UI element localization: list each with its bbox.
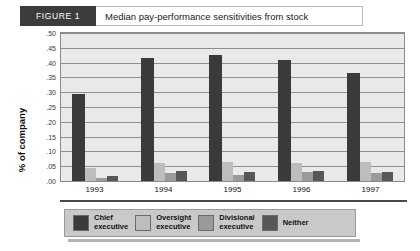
bar: [313, 171, 324, 181]
x-axis-ticks: 19931994199519961997: [60, 183, 405, 199]
x-axis-tick-label: 1997: [336, 183, 405, 199]
bar: [291, 163, 302, 181]
bar-group: [130, 33, 199, 181]
legend-swatch: [73, 215, 89, 231]
bar: [209, 55, 222, 181]
figure-title: Median pay-performance sensitivities fro…: [96, 6, 363, 26]
chart-legend: Chief executiveOversight executiveDivisi…: [64, 209, 356, 237]
figure-panel: FIGURE 1 Median pay-performance sensitiv…: [0, 0, 420, 251]
y-axis-ticks: .50.45.40.35.30.25.20.15.10.05.00: [36, 32, 56, 182]
bar-chart: % of company .50.45.40.35.30.25.20.15.10…: [0, 32, 420, 202]
figure-header: FIGURE 1 Median pay-performance sensitiv…: [20, 6, 363, 26]
bar: [222, 162, 233, 181]
y-axis-tick-label: .30: [46, 89, 56, 96]
y-axis-tick-label: .20: [46, 118, 56, 125]
figure-number-tag: FIGURE 1: [20, 6, 96, 26]
bar-group: [198, 33, 267, 181]
bar: [72, 94, 85, 181]
y-axis-tick-label: .10: [46, 148, 56, 155]
legend-swatch: [198, 215, 214, 231]
bar: [371, 173, 382, 181]
y-axis-tick-label: .05: [46, 163, 56, 170]
bar-groups: [61, 33, 404, 181]
bar: [233, 175, 244, 182]
bar: [85, 168, 96, 181]
bar: [165, 173, 176, 181]
bar: [154, 163, 165, 181]
bar: [96, 178, 107, 181]
legend-item: Divisional executive: [198, 214, 254, 231]
bar: [347, 73, 360, 181]
x-axis-tick-label: 1994: [129, 183, 198, 199]
x-axis-tick-label: 1996: [267, 183, 336, 199]
legend-label: Chief executive: [94, 214, 128, 231]
bar-group: [267, 33, 336, 181]
y-axis-tick-label: .25: [46, 104, 56, 111]
bar-group: [61, 33, 130, 181]
legend-shadow: [68, 239, 360, 242]
bar: [176, 171, 187, 181]
legend-label: Oversight executive: [156, 214, 191, 231]
legend-item: Chief executive: [73, 214, 128, 231]
y-axis-tick-label: .40: [46, 59, 56, 66]
x-axis-tick-label: 1993: [60, 183, 129, 199]
legend-swatch: [135, 215, 151, 231]
bar: [382, 172, 393, 181]
legend-label: Neither: [283, 219, 309, 228]
bar-group: [335, 33, 404, 181]
x-axis-tick-label: 1995: [198, 183, 267, 199]
y-axis-tick-label: .15: [46, 133, 56, 140]
bar: [141, 58, 154, 181]
y-axis-tick-label: .45: [46, 44, 56, 51]
legend-item: Neither: [262, 215, 309, 231]
y-axis-tick-label: .00: [46, 178, 56, 185]
legend-item: Oversight executive: [135, 214, 191, 231]
bar: [278, 60, 291, 181]
y-axis-tick-label: .50: [46, 30, 56, 37]
axis-baseline: [60, 200, 407, 202]
bar: [107, 176, 118, 181]
legend-swatch: [262, 215, 278, 231]
bar: [360, 162, 371, 181]
bar: [244, 172, 255, 181]
y-axis-tick-label: .35: [46, 74, 56, 81]
plot-area: [60, 32, 405, 182]
bar: [302, 172, 313, 181]
legend-label: Divisional executive: [219, 214, 254, 231]
